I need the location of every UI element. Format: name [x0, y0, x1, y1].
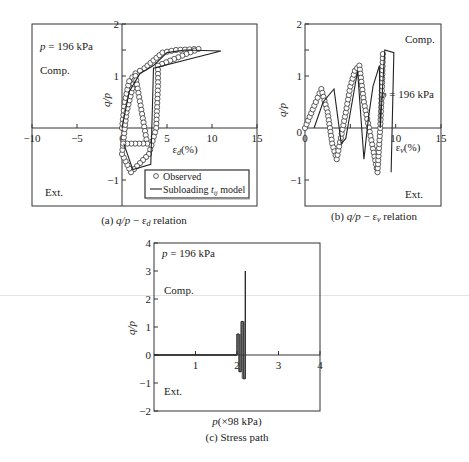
legend-observed-icon [154, 174, 159, 179]
figure-caption: (a) q/p − εd relation [101, 214, 187, 228]
figure-caption: (c) Stress path [206, 431, 269, 444]
y-tick-label: −1 [290, 174, 302, 186]
y-tick-label: 3 [146, 265, 152, 277]
y-tick-label: −1 [139, 377, 151, 389]
y-tick-label: 1 [114, 70, 120, 82]
x-tick-label: 10 [207, 132, 219, 144]
y-axis-label: q/p [100, 92, 112, 107]
x-tick-label: 1 [193, 359, 199, 371]
figure-caption: (b) q/p − εv relation [331, 210, 417, 224]
y-tick-label: 2 [297, 18, 303, 30]
x-tick-label: 15 [436, 132, 448, 144]
x-axis-label: εd(%) [172, 143, 197, 157]
pressure-annotation: p = 196 kPa [161, 247, 215, 259]
y-tick-label: 4 [146, 237, 152, 249]
legend: ObservedSubloading tij model [145, 170, 250, 199]
y-axis-label: q/p [125, 320, 137, 335]
x-axis-label: p(×98 kPa) [211, 415, 262, 428]
x-axis-label: εv(%) [396, 141, 421, 155]
x-tick-label: 15 [252, 132, 264, 144]
chart-b: 01015−1120Comp.p = 196 kPaExt.q/pεv(%)(b… [276, 18, 447, 224]
y-tick-label: 2 [146, 293, 152, 305]
y-tick-label: 2 [114, 18, 120, 30]
figure-canvas: −10−5051015−112p = 196 kPaComp.Ext.q/pεd… [0, 0, 469, 462]
x-tick-label: 4 [317, 359, 323, 371]
svg-text:0: 0 [297, 126, 303, 138]
pressure-annotation: p = 196 kPa [380, 88, 434, 100]
legend-observed-label: Observed [163, 171, 201, 182]
y-tick-label: −1 [107, 174, 119, 186]
pressure-annotation: p = 196 kPa [39, 40, 93, 52]
comp-label: Comp. [405, 33, 435, 45]
ext-label: Ext. [405, 188, 423, 200]
observed-marker [121, 141, 126, 146]
x-tick-label: 0 [302, 132, 308, 144]
x-tick-label: 3 [276, 359, 282, 371]
ext-label: Ext. [45, 186, 63, 198]
y-tick-label: −2 [139, 405, 151, 417]
y-tick-label: 1 [146, 321, 152, 333]
comp-label: Comp. [164, 284, 194, 296]
ext-label: Ext. [164, 385, 182, 397]
x-tick-label: −10 [23, 132, 41, 144]
x-tick-label: 5 [164, 132, 170, 144]
y-tick-label: 0 [146, 349, 152, 361]
plot-frame [305, 24, 441, 206]
y-tick-label: 1 [297, 70, 303, 82]
chart-c: 1234−2−101234p = 196 kPaComp.Ext.q/pp(×9… [125, 237, 323, 444]
comp-label: Comp. [40, 64, 70, 76]
y-axis-label: q/p [276, 102, 288, 117]
x-tick-label: −5 [71, 132, 83, 144]
chart-a: −10−5051015−112p = 196 kPaComp.Ext.q/pεd… [23, 18, 263, 228]
